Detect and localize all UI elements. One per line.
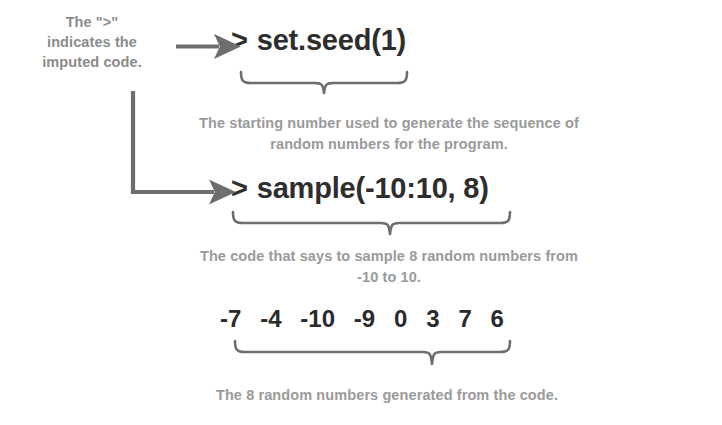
output-numbers-row: -7 -4 -10 -9 0 3 7 6 xyxy=(220,305,504,333)
output-number: -7 xyxy=(220,305,241,333)
caption-sample-explanation: The code that says to sample 8 random nu… xyxy=(198,246,580,288)
output-number: -9 xyxy=(354,305,375,333)
prompt-annotation-line-3: imputed code. xyxy=(12,52,172,72)
output-number: -4 xyxy=(260,305,281,333)
output-number: 0 xyxy=(394,305,407,333)
prompt-symbol-2: > xyxy=(231,172,248,204)
brace-output-numbers xyxy=(235,341,510,364)
output-number: 7 xyxy=(458,305,471,333)
prompt-symbol-1: > xyxy=(231,24,248,56)
code-text-set-seed: set.seed(1) xyxy=(257,24,406,56)
output-number: 3 xyxy=(426,305,439,333)
code-line-set-seed: >set.seed(1) xyxy=(231,24,406,57)
prompt-annotation-line-2: indicates the xyxy=(12,32,172,52)
annotated-code-figure: The ">" indicates the imputed code. >set… xyxy=(0,0,722,425)
prompt-annotation-note: The ">" indicates the imputed code. xyxy=(12,12,172,72)
brace-set-seed xyxy=(241,72,407,93)
prompt-annotation-line-1: The ">" xyxy=(12,12,172,32)
output-number: -10 xyxy=(300,305,335,333)
output-number: 6 xyxy=(491,305,504,333)
brace-sample xyxy=(233,212,510,234)
code-text-sample: sample(-10:10, 8) xyxy=(257,172,489,204)
caption-seed-explanation: The starting number used to generate the… xyxy=(184,113,594,155)
caption-output-explanation: The 8 random numbers generated from the … xyxy=(164,385,610,406)
code-line-sample: >sample(-10:10, 8) xyxy=(231,172,489,205)
